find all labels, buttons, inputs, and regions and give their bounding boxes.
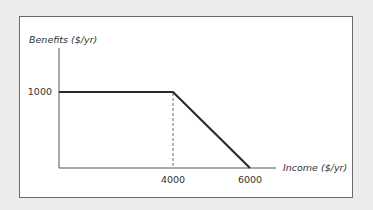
benefits-chart: Benefits ($/yr) 1000 4000 6000 Income ($… — [0, 0, 373, 210]
benefit-series-line — [59, 92, 250, 168]
y-axis-label: Benefits ($/yr) — [29, 34, 97, 45]
x-tick-6000: 6000 — [238, 174, 262, 185]
x-axis-label: Income ($/yr) — [283, 162, 347, 173]
y-tick-1000: 1000 — [28, 86, 52, 97]
x-tick-4000: 4000 — [161, 174, 185, 185]
